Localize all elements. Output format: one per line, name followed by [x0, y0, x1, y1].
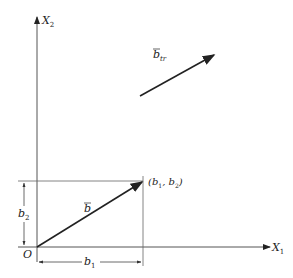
vector-b-label: b — [84, 202, 91, 215]
vector-btr — [140, 55, 214, 96]
origin-label: O — [23, 248, 32, 261]
x2-axis-label: X2 — [41, 14, 54, 29]
x1-axis-label: X1 — [271, 241, 284, 256]
vector-diagram: X2 X1 O b btr (b1, b2) b1 b2 — [0, 0, 293, 278]
point-label: (b1, b2) — [148, 176, 183, 189]
vector-btr-label: btr — [153, 48, 167, 63]
diagram-canvas: X2 X1 O b btr (b1, b2) b1 b2 — [0, 0, 293, 278]
